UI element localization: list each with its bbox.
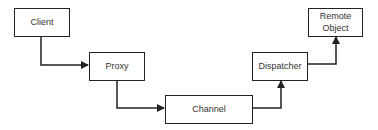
- node-dispatcher: Dispatcher: [252, 52, 308, 81]
- node-proxy: Proxy: [89, 52, 145, 81]
- node-remote-object-label-line1: Remote: [320, 11, 352, 22]
- node-client-label: Client: [30, 17, 53, 28]
- node-proxy-label: Proxy: [105, 61, 128, 72]
- node-channel: Channel: [165, 95, 253, 124]
- edge-proxy-channel: [117, 80, 164, 108]
- edge-dispatcher-remote: [307, 37, 336, 64]
- node-remote-object: Remote Object: [308, 8, 363, 37]
- edge-client-proxy: [41, 36, 88, 65]
- edge-channel-dispatcher: [252, 81, 281, 108]
- node-dispatcher-label: Dispatcher: [258, 61, 301, 72]
- node-channel-label: Channel: [192, 104, 226, 115]
- node-remote-object-label-line2: Object: [322, 23, 348, 34]
- node-client: Client: [14, 8, 70, 37]
